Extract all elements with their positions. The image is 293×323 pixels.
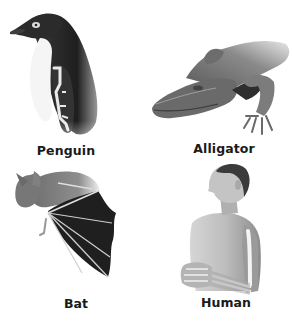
human-panel: Human: [146, 161, 293, 323]
penguin-illustration: [0, 0, 146, 161]
homologous-structures-figure: Penguin: [0, 0, 293, 323]
bat-label: Bat: [52, 296, 100, 311]
penguin-label: Penguin: [30, 143, 102, 158]
bat-panel: Bat: [0, 161, 146, 323]
alligator-panel: Alligator: [146, 0, 293, 161]
penguin-panel: Penguin: [0, 0, 146, 161]
alligator-illustration: [146, 0, 293, 161]
alligator-label: Alligator: [184, 141, 264, 156]
human-label: Human: [188, 295, 264, 310]
